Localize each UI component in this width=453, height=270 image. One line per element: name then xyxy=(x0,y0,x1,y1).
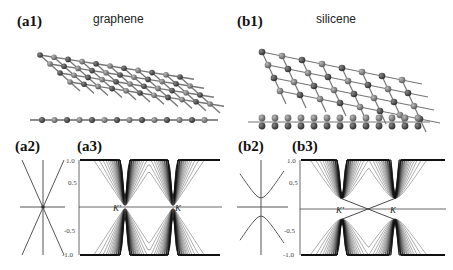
svg-text:-1.0: -1.0 xyxy=(283,251,295,259)
k-label-b3: K xyxy=(389,205,397,215)
graphene-lattice-top xyxy=(37,52,224,113)
svg-text:0.5: 0.5 xyxy=(289,179,298,187)
ytick-neg0.5: -0.5 xyxy=(64,227,76,235)
graphene-ribbon-bands-plot: 1.0 0.5 -0.5 -1.0 K' K xyxy=(62,157,222,259)
k-prime-label-b3: K' xyxy=(335,205,345,215)
ytick-1.0: 1.0 xyxy=(66,157,75,165)
ytick-neg1.0: -1.0 xyxy=(62,251,74,259)
graphene-side-view xyxy=(30,117,218,123)
ytick-0.5: 0.5 xyxy=(68,179,77,187)
silicene-gapped-cone-plot xyxy=(237,160,288,255)
k-label: K xyxy=(174,203,182,213)
svg-text:1.0: 1.0 xyxy=(287,157,296,165)
k-prime-label: K' xyxy=(112,203,122,213)
graphene-dirac-cone-plot xyxy=(20,160,65,255)
figure-canvas: 1.0 0.5 -0.5 -1.0 K' K 1.0 0.5 -0.5 -1.0… xyxy=(0,0,453,270)
silicene-ribbon-bands-plot: 1.0 0.5 -0.5 -1.0 K' K xyxy=(283,157,446,259)
silicene-side-view xyxy=(248,115,430,130)
svg-text:-0.5: -0.5 xyxy=(284,227,296,235)
